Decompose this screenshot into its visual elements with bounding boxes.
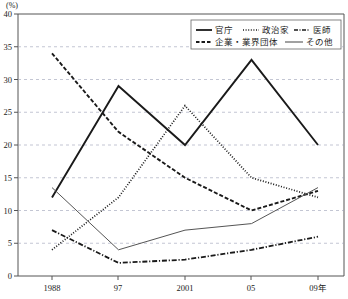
y-tick-40: 40 (4, 9, 13, 19)
x-tick-09: 09年 (309, 283, 327, 293)
x-tick-97: 97 (114, 283, 123, 293)
y-tick-5: 5 (8, 238, 12, 248)
y-tick-35: 35 (4, 42, 13, 52)
x-tick-1988: 1988 (44, 283, 61, 293)
y-tick-25: 25 (4, 107, 13, 117)
legend-label-kigyo: 企業・業界団体 (215, 37, 278, 47)
x-axis-ticks (52, 276, 318, 280)
chart-svg: 0 5 10 15 20 25 30 35 40 (%) 1988 97 200… (0, 0, 348, 299)
y-tick-20: 20 (4, 140, 13, 150)
y-axis-unit-label: (%) (6, 1, 18, 10)
x-tick-2001: 2001 (177, 283, 194, 293)
line-chart: 0 5 10 15 20 25 30 35 40 (%) 1988 97 200… (0, 0, 348, 299)
y-axis-ticks (14, 14, 18, 276)
legend-label-kancho: 官庁 (215, 25, 233, 35)
y-tick-10: 10 (4, 206, 13, 216)
y-tick-30: 30 (4, 75, 13, 85)
legend: 官庁 政治家 医師 企業・業界団体 その他 (191, 20, 341, 49)
legend-label-ishi: 医師 (313, 25, 331, 35)
y-tick-0: 0 (8, 271, 12, 281)
x-tick-05: 05 (247, 283, 256, 293)
y-tick-15: 15 (4, 173, 13, 183)
legend-label-sonota: その他 (306, 37, 333, 47)
legend-label-seijika: 政治家 (262, 25, 289, 35)
